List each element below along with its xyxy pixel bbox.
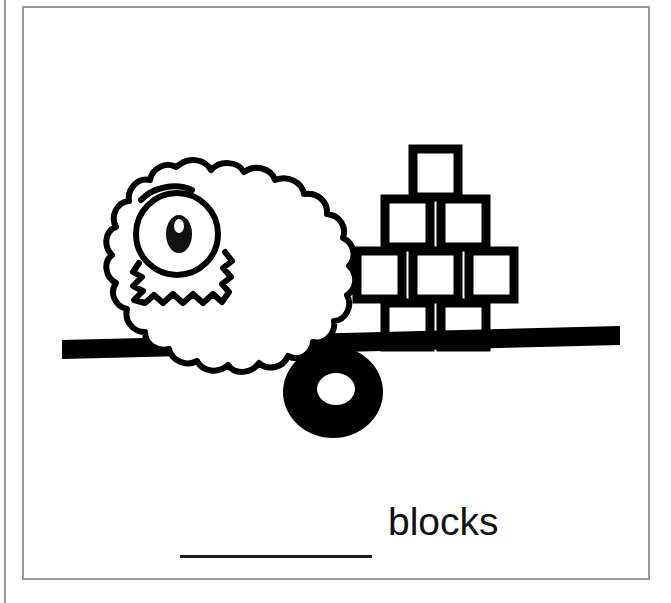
fluffy-monster xyxy=(106,160,355,372)
block xyxy=(469,251,514,299)
block xyxy=(385,199,430,247)
monster-body xyxy=(106,160,355,372)
block-stack xyxy=(357,149,514,347)
block xyxy=(413,251,458,299)
block xyxy=(413,149,458,197)
answer-blank-line[interactable] xyxy=(180,555,372,558)
unit-label: blocks xyxy=(388,500,499,544)
monster-eye-highlight xyxy=(174,219,184,233)
worksheet-page: blocks xyxy=(0,0,671,603)
block xyxy=(357,251,402,299)
balance-scale-illustration xyxy=(0,0,671,603)
block xyxy=(441,199,486,247)
